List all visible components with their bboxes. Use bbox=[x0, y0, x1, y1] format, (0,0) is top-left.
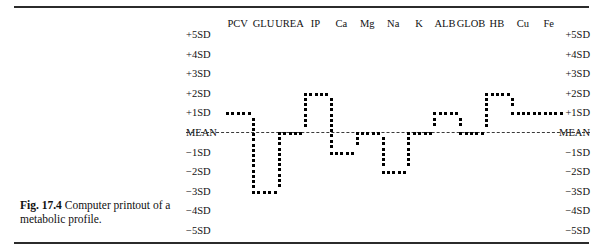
axis-label-right-1: +4SD bbox=[565, 49, 590, 60]
column-header-glob: GLOB bbox=[457, 18, 486, 30]
trace-dot-h-22 bbox=[560, 112, 563, 115]
trace-dot-v-1 bbox=[252, 159, 255, 162]
axis-label-right-0: +5SD bbox=[565, 29, 590, 40]
axis-label-left-4: +1SD bbox=[186, 107, 211, 118]
trace-dot-v-15 bbox=[433, 123, 436, 126]
trace-dot-v-7 bbox=[330, 129, 333, 132]
trace-dot-v-17 bbox=[459, 118, 462, 121]
trace-dot-h-6 bbox=[315, 93, 318, 96]
column-header-urea: UREA bbox=[275, 18, 304, 30]
axis-label-left-1: +4SD bbox=[186, 49, 211, 60]
trace-dot-h-12 bbox=[403, 171, 406, 174]
trace-dot-h-12 bbox=[398, 171, 401, 174]
trace-dot-h-18 bbox=[459, 132, 462, 135]
trace-dot-h-2 bbox=[274, 191, 277, 194]
metabolic-profile-chart: PCVGLUUREAIPCaMgNaKALBGLOBHBCuFe +5SD+4S… bbox=[186, 18, 590, 234]
trace-dot-v-5 bbox=[304, 108, 307, 111]
trace-dot-h-16 bbox=[450, 112, 453, 115]
trace-dot-h-10 bbox=[361, 132, 364, 135]
trace-dot-v-7 bbox=[330, 103, 333, 106]
axis-label-left-6: −1SD bbox=[186, 147, 211, 158]
trace-dot-v-19 bbox=[485, 108, 488, 111]
trace-dot-h-22 bbox=[511, 112, 514, 115]
trace-dot-v-19 bbox=[485, 98, 488, 101]
trace-dot-v-7 bbox=[330, 108, 333, 111]
column-header-mg: Mg bbox=[360, 18, 375, 30]
trace-dot-v-1 bbox=[252, 118, 255, 121]
axis-label-right-7: −2SD bbox=[565, 166, 590, 177]
trace-dot-h-18 bbox=[475, 132, 478, 135]
trace-dot-h-16 bbox=[433, 112, 436, 115]
trace-dot-h-18 bbox=[470, 132, 473, 135]
trace-dot-h-22 bbox=[538, 112, 541, 115]
column-header-na: Na bbox=[387, 18, 399, 30]
axis-label-left-7: −2SD bbox=[186, 166, 211, 177]
trace-dot-v-1 bbox=[252, 164, 255, 167]
trace-dot-h-0 bbox=[242, 112, 245, 115]
trace-dot-v-19 bbox=[485, 103, 488, 106]
trace-dot-h-10 bbox=[372, 132, 375, 135]
trace-dot-v-15 bbox=[433, 118, 436, 121]
column-header-k: K bbox=[415, 18, 423, 30]
trace-dot-h-22 bbox=[522, 112, 525, 115]
trace-dot-v-7 bbox=[330, 124, 333, 127]
trace-dot-h-8 bbox=[346, 152, 349, 155]
trace-dot-v-1 bbox=[252, 175, 255, 178]
column-header-fe: Fe bbox=[543, 18, 554, 30]
trace-dot-v-1 bbox=[252, 185, 255, 188]
trace-dot-h-12 bbox=[392, 171, 395, 174]
trace-dot-h-2 bbox=[268, 191, 271, 194]
trace-dot-v-21 bbox=[511, 103, 514, 106]
trace-dot-v-1 bbox=[252, 123, 255, 126]
trace-dot-h-8 bbox=[330, 152, 333, 155]
trace-dot-h-14 bbox=[407, 132, 410, 135]
trace-dot-h-20 bbox=[507, 93, 510, 96]
trace-dot-v-7 bbox=[330, 134, 333, 137]
trace-dot-h-20 bbox=[491, 93, 494, 96]
trace-dot-v-1 bbox=[252, 180, 255, 183]
trace-dot-h-8 bbox=[340, 152, 343, 155]
trace-dot-h-2 bbox=[263, 191, 266, 194]
trace-dot-h-20 bbox=[501, 93, 504, 96]
trace-dot-h-10 bbox=[356, 132, 359, 135]
trace-dot-v-3 bbox=[278, 174, 281, 177]
column-header-ip: IP bbox=[311, 18, 320, 30]
trace-dot-h-14 bbox=[418, 132, 421, 135]
trace-dot-v-5 bbox=[304, 114, 307, 117]
trace-dot-h-0 bbox=[237, 112, 240, 115]
trace-dot-v-11 bbox=[382, 137, 385, 140]
trace-dot-v-11 bbox=[382, 163, 385, 166]
trace-dot-v-7 bbox=[330, 114, 333, 117]
trace-dot-v-13 bbox=[407, 142, 410, 145]
trace-dot-h-12 bbox=[387, 171, 390, 174]
trace-dot-v-7 bbox=[330, 98, 333, 101]
trace-dot-v-11 bbox=[382, 142, 385, 145]
trace-dot-v-3 bbox=[278, 158, 281, 161]
trace-dot-v-3 bbox=[278, 168, 281, 171]
trace-dot-v-21 bbox=[511, 98, 514, 101]
trace-dot-v-3 bbox=[278, 184, 281, 187]
trace-dot-v-19 bbox=[485, 124, 488, 127]
axis-label-right-8: −3SD bbox=[565, 186, 590, 197]
trace-dot-v-13 bbox=[407, 137, 410, 140]
plot-area bbox=[226, 34, 550, 230]
trace-dot-v-9 bbox=[356, 137, 359, 140]
trace-dot-h-2 bbox=[252, 191, 255, 194]
trace-dot-v-11 bbox=[382, 153, 385, 156]
axis-label-left-2: +3SD bbox=[186, 68, 211, 79]
trace-dot-h-2 bbox=[257, 191, 260, 194]
column-header-ca: Ca bbox=[336, 18, 348, 30]
trace-dot-v-7 bbox=[330, 145, 333, 148]
trace-dot-h-20 bbox=[496, 93, 499, 96]
axis-label-left-3: +2SD bbox=[186, 88, 211, 99]
figure-number: Fig. 17.4 bbox=[20, 199, 62, 211]
figure-page: Fig. 17.4 Computer printout of a metabol… bbox=[0, 0, 603, 252]
trace-dot-v-1 bbox=[252, 133, 255, 136]
trace-dot-v-1 bbox=[252, 144, 255, 147]
trace-dot-h-10 bbox=[366, 132, 369, 135]
trace-dot-v-3 bbox=[278, 148, 281, 151]
column-header-pcv: PCV bbox=[227, 18, 247, 30]
trace-dot-h-6 bbox=[309, 93, 312, 96]
trace-dot-v-5 bbox=[304, 124, 307, 127]
axis-label-right-4: +1SD bbox=[565, 107, 590, 118]
